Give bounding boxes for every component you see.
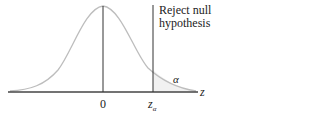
z-axis-label: z (200, 86, 205, 98)
reject-line-2: hypothesis (159, 17, 211, 30)
tick-z-alpha: zα (148, 98, 156, 113)
tick-z-sub: α (153, 105, 157, 113)
reject-null-annotation: Reject null hypothesis (159, 4, 211, 30)
alpha-label: α (173, 74, 179, 85)
tick-zero: 0 (100, 98, 106, 110)
